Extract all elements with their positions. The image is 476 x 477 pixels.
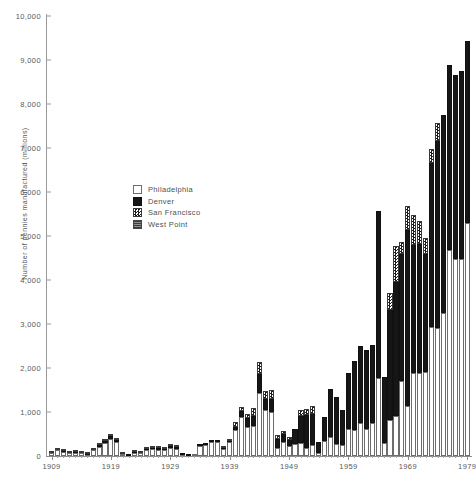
bar-segment-philadelphia xyxy=(209,442,214,456)
bar-segment-denver xyxy=(269,399,274,413)
bar-1958 xyxy=(340,410,345,456)
bar-segment-philadelphia xyxy=(399,381,404,456)
bar-segment-philadelphia xyxy=(275,448,280,456)
legend-label-philadelphia: Philadelphia xyxy=(148,185,193,194)
bar-segment-philadelphia xyxy=(120,454,125,456)
legend-swatch-philadelphia xyxy=(133,185,142,194)
bar-segment-philadelphia xyxy=(269,412,274,456)
bar-segment-denver xyxy=(435,141,440,327)
bar-segment-san-francisco xyxy=(405,206,410,230)
x-tick-label: 1949 xyxy=(280,462,298,471)
bar-1916 xyxy=(91,449,96,456)
bar-segment-denver xyxy=(251,416,256,426)
bar-segment-denver xyxy=(209,440,214,442)
bar-1932 xyxy=(186,455,191,456)
bar-segment-san-francisco xyxy=(411,215,416,245)
y-axis-title: Number of pennies manufactured (millions… xyxy=(21,84,28,324)
bar-1937 xyxy=(215,440,220,456)
bar-1909 xyxy=(49,453,54,456)
legend-label-denver: Denver xyxy=(148,197,174,206)
bar-1922 xyxy=(126,455,131,456)
bar-segment-denver xyxy=(275,439,280,448)
bar-segment-denver xyxy=(405,230,410,406)
bar-segment-philadelphia xyxy=(97,447,102,456)
bar-segment-denver xyxy=(393,282,398,416)
bar-1978 xyxy=(459,71,464,456)
bar-1962 xyxy=(364,350,369,456)
y-tick-label: 4,000 xyxy=(0,276,41,285)
x-minor-tick xyxy=(69,456,70,458)
x-minor-tick xyxy=(360,456,361,458)
x-minor-tick xyxy=(301,456,302,458)
y-tick-label: 9,000 xyxy=(0,56,41,65)
legend-swatch-denver xyxy=(133,197,142,206)
x-minor-tick xyxy=(414,456,415,458)
bar-segment-philadelphia xyxy=(79,453,84,456)
x-minor-tick xyxy=(182,456,183,458)
bar-1945 xyxy=(263,391,268,456)
x-minor-tick xyxy=(325,456,326,458)
bar-1949 xyxy=(287,437,292,456)
x-minor-tick xyxy=(461,456,462,458)
bar-1953 xyxy=(310,406,315,456)
x-minor-tick xyxy=(366,456,367,458)
bar-1944 xyxy=(257,362,262,456)
bar-segment-denver xyxy=(298,416,303,444)
bar-segment-denver xyxy=(447,65,452,251)
x-minor-tick xyxy=(123,456,124,458)
x-minor-tick xyxy=(259,456,260,458)
bar-segment-philadelphia xyxy=(346,429,351,456)
x-minor-tick xyxy=(277,456,278,458)
x-minor-tick xyxy=(242,456,243,458)
x-minor-tick xyxy=(194,456,195,458)
bar-segment-denver xyxy=(316,442,321,453)
bar-segment-san-francisco xyxy=(417,221,422,244)
legend-item-philadelphia[interactable]: Philadelphia xyxy=(133,184,201,195)
y-tick-label: 2,000 xyxy=(0,364,41,373)
bar-segment-san-francisco xyxy=(97,443,102,445)
bar-segment-denver xyxy=(239,411,244,417)
x-minor-tick xyxy=(283,456,284,458)
bar-segment-denver xyxy=(352,361,357,431)
bar-segment-san-francisco xyxy=(393,246,398,282)
x-tick-label: 1959 xyxy=(339,462,357,471)
bar-segment-san-francisco xyxy=(55,448,60,450)
legend-label-west-point: West Point xyxy=(148,220,188,229)
x-tick-mark xyxy=(348,456,349,460)
bar-1918 xyxy=(102,439,107,456)
x-minor-tick xyxy=(271,456,272,458)
bar-1931 xyxy=(180,455,185,456)
bar-segment-denver xyxy=(287,440,292,447)
bar-segment-san-francisco xyxy=(429,149,434,163)
bar-segment-denver xyxy=(263,399,268,411)
bar-segment-philadelphia xyxy=(168,448,173,456)
x-minor-tick xyxy=(426,456,427,458)
bar-segment-denver xyxy=(382,377,387,443)
legend: Philadelphia Denver San Francisco West P… xyxy=(133,184,201,230)
legend-item-denver[interactable]: Denver xyxy=(133,196,201,207)
bar-segment-philadelphia xyxy=(203,445,208,456)
y-tick-label: 0 xyxy=(0,452,41,461)
bar-1938 xyxy=(221,448,226,456)
bar-segment-denver xyxy=(215,440,220,442)
bar-1912 xyxy=(67,452,72,456)
bar-1915 xyxy=(85,454,90,456)
bar-1913 xyxy=(73,452,78,456)
bar-segment-san-francisco xyxy=(73,450,78,452)
bar-segment-philadelphia xyxy=(263,410,268,456)
bar-segment-philadelphia xyxy=(192,454,197,456)
bar-segment-san-francisco xyxy=(138,451,143,453)
bar-segment-philadelphia xyxy=(132,453,137,456)
legend-item-west-point[interactable]: West Point xyxy=(133,219,201,230)
bar-1948 xyxy=(281,431,286,456)
bar-segment-denver xyxy=(197,444,202,446)
bar-1965 xyxy=(382,377,387,456)
bar-segment-san-francisco xyxy=(49,451,54,453)
x-minor-tick xyxy=(188,456,189,458)
bar-segment-denver xyxy=(174,447,179,449)
bar-segment-denver xyxy=(310,414,315,445)
legend-item-san-francisco[interactable]: San Francisco xyxy=(133,207,201,218)
bar-segment-san-francisco xyxy=(423,238,428,255)
bar-segment-denver xyxy=(102,441,107,444)
